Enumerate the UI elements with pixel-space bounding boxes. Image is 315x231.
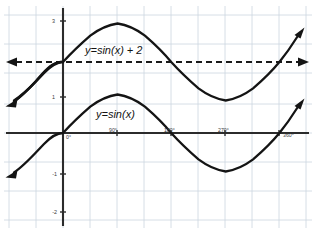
upper-curve-label: y=sin(x) + 2 xyxy=(84,44,142,56)
sine-graph-plot: 0° 90° 180° 270° 360° 3 1 -1 -2 y=sin(x)… xyxy=(0,0,315,231)
y-tick-label-3: 3 xyxy=(52,18,55,24)
x-tick-label-180: 180° xyxy=(164,127,175,133)
x-tick-label-360: 360° xyxy=(283,132,294,138)
lower-curve-label: y=sin(x) xyxy=(95,108,135,120)
y-tick-label-1: 1 xyxy=(52,94,55,100)
y-tick-label-neg1: -1 xyxy=(52,171,57,177)
y-tick-label-neg2: -2 xyxy=(52,209,57,215)
x-tick-label-90: 90° xyxy=(109,127,117,133)
plot-background xyxy=(0,0,315,231)
x-tick-label-270: 270° xyxy=(218,127,229,133)
sine-graph-figure: 0° 90° 180° 270° 360° 3 1 -1 -2 y=sin(x)… xyxy=(0,0,315,231)
x-tick-label-0: 0° xyxy=(66,134,71,140)
